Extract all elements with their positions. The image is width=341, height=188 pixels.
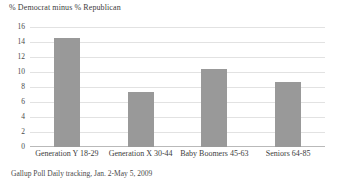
plot-area: 0246810121416 Generation Y 18-29Generati… bbox=[30, 27, 325, 147]
y-tick-label: 8 bbox=[21, 83, 25, 91]
y-tick-label: 10 bbox=[18, 68, 26, 76]
bar-slot bbox=[104, 27, 178, 147]
chart-title: % Democrat minus % Republican bbox=[9, 3, 121, 13]
bars-layer bbox=[30, 27, 325, 147]
bar-slot bbox=[30, 27, 104, 147]
bar[interactable] bbox=[275, 82, 301, 147]
y-tick-label: 4 bbox=[21, 113, 25, 121]
bar-slot bbox=[178, 27, 252, 147]
x-tick-label: Generation Y 18-29 bbox=[35, 149, 98, 158]
x-tick-label: Baby Boomers 45-63 bbox=[180, 149, 248, 158]
source-note: Gallup Poll Daily tracking, Jan. 2-May 5… bbox=[11, 169, 152, 178]
x-tick-label: Generation X 30-44 bbox=[109, 149, 173, 158]
bar-slot bbox=[251, 27, 325, 147]
x-tick-label: Seniors 64-85 bbox=[266, 149, 311, 158]
y-tick-label: 2 bbox=[21, 128, 25, 136]
y-tick-label: 16 bbox=[18, 23, 26, 31]
y-tick-label: 14 bbox=[18, 38, 26, 46]
bar[interactable] bbox=[54, 38, 80, 147]
bar[interactable] bbox=[128, 92, 154, 148]
bar-chart-figure: % Democrat minus % Republican 0246810121… bbox=[0, 0, 341, 188]
y-tick-label: 12 bbox=[18, 53, 26, 61]
y-tick-label: 6 bbox=[21, 98, 25, 106]
y-tick-label: 0 bbox=[21, 143, 25, 151]
bar[interactable] bbox=[201, 69, 227, 147]
